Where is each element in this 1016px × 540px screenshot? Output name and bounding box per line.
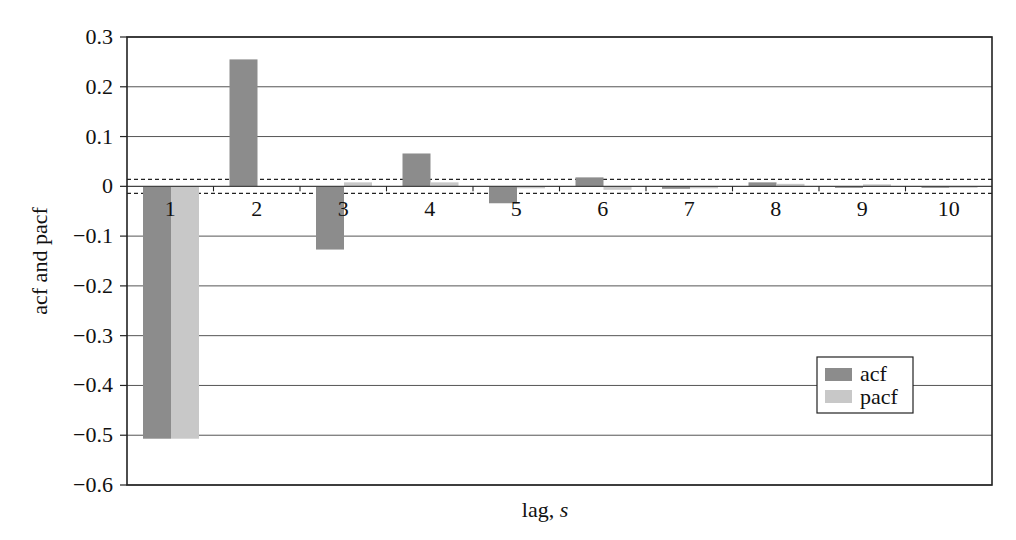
- bar-acf-lag-6: [576, 177, 604, 186]
- y-axis-title: acf and pacf: [27, 207, 52, 315]
- y-tick-label: 0.3: [86, 24, 114, 49]
- legend-label-acf: acf: [860, 361, 888, 386]
- x-category-label: 8: [770, 196, 781, 221]
- x-category-label: 6: [597, 196, 608, 221]
- bar-acf-lag-4: [403, 153, 431, 186]
- legend-swatch-pacf: [825, 390, 852, 403]
- y-tick-label: 0.2: [86, 74, 114, 99]
- x-category-label: 9: [857, 196, 868, 221]
- x-axis-title: lag, s: [522, 497, 568, 522]
- x-category-label: 7: [684, 196, 695, 221]
- y-tick-label: −0.3: [73, 323, 113, 348]
- x-category-label: 5: [511, 196, 522, 221]
- y-tick-label: 0.1: [86, 124, 114, 149]
- x-category-label: 4: [424, 196, 435, 221]
- legend-swatch-acf: [825, 368, 852, 381]
- y-tick-label: −0.1: [73, 223, 113, 248]
- bar-pacf-lag-3: [344, 182, 372, 186]
- bar-acf-lag-2: [230, 59, 258, 186]
- y-tick-label: −0.2: [73, 273, 113, 298]
- legend-label-pacf: pacf: [860, 384, 899, 409]
- x-category-label: 2: [251, 196, 262, 221]
- bar-acf-lag-8: [749, 182, 777, 186]
- y-tick-label: −0.4: [73, 372, 113, 397]
- bar-pacf-lag-1: [171, 186, 199, 438]
- x-category-labels: 12345678910: [165, 196, 960, 221]
- x-category-label: 3: [338, 196, 349, 221]
- legend: acf pacf: [817, 357, 913, 413]
- acf-pacf-chart: 0.30.20.10−0.1−0.2−0.3−0.4−0.5−0.6 12345…: [0, 0, 1016, 540]
- x-category-label: 1: [165, 196, 176, 221]
- y-tick-label: −0.6: [73, 472, 113, 497]
- x-category-label: 10: [938, 196, 960, 221]
- y-axis-ticks: 0.30.20.10−0.1−0.2−0.3−0.4−0.5−0.6: [73, 24, 127, 497]
- y-tick-label: −0.5: [73, 422, 113, 447]
- bar-acf-lag-1: [143, 186, 171, 438]
- bar-pacf-lag-4: [431, 182, 459, 186]
- y-tick-label: 0: [102, 173, 113, 198]
